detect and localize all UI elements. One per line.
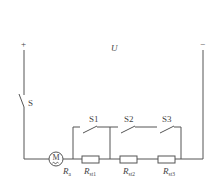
resistor-rst2 — [120, 156, 137, 163]
svg-text:M: M — [53, 153, 60, 162]
switch-s2-blade — [121, 126, 135, 133]
main-switch-label: S — [28, 98, 33, 108]
motor-icon: M — [49, 152, 63, 166]
resistor-rst3 — [158, 156, 175, 163]
resistor-rst1 — [82, 156, 99, 163]
resistor-rst3-label: Rst3 — [162, 166, 175, 177]
voltage-label: U — [111, 43, 118, 53]
motor-resistance-label: Ra — [62, 166, 72, 177]
positive-terminal-label: + — [21, 39, 26, 49]
resistor-rst2-label: Rst2 — [122, 166, 135, 177]
negative-terminal-label: − — [200, 39, 205, 49]
switch-s2-label: S2 — [124, 114, 134, 124]
main-switch-blade — [19, 94, 24, 107]
resistor-rst1-label: Rst1 — [83, 166, 96, 177]
circuit-diagram: + − U S M Ra Rst1 Rst2 Rst3 S — [0, 0, 217, 187]
switch-s1-blade — [83, 126, 97, 133]
switch-s3-blade — [160, 126, 174, 133]
switch-s1-label: S1 — [89, 114, 99, 124]
switch-s3-label: S3 — [162, 114, 172, 124]
